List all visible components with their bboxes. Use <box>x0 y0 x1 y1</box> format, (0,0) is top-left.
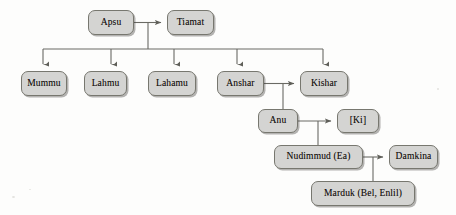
node-kishar[interactable]: Kishar <box>300 71 348 96</box>
node-label: Apsu <box>99 17 124 27</box>
node-lahmu[interactable]: Lahmu <box>84 71 127 96</box>
node-damkina[interactable]: Damkina <box>389 145 438 169</box>
node-lahamu[interactable]: Lahamu <box>148 71 196 96</box>
node-label: Anshar <box>224 78 256 88</box>
node-label: Nudimmud (Ea) <box>285 152 353 162</box>
scan-speckle <box>12 196 15 198</box>
node-apsu[interactable]: Apsu <box>88 10 134 35</box>
node-label: Anu <box>268 116 289 126</box>
node-label: Kishar <box>309 78 339 88</box>
node-label: Tiamat <box>175 17 206 27</box>
node-label: Mummu <box>25 78 62 88</box>
node-nudimmud-ea[interactable]: Nudimmud (Ea) <box>274 145 363 169</box>
node-tiamat[interactable]: Tiamat <box>167 10 214 35</box>
node-anu[interactable]: Anu <box>258 109 298 133</box>
node-label: Marduk (Bel, Enlil) <box>322 188 404 198</box>
node-label: Lahmu <box>90 78 122 88</box>
scan-speckle <box>29 189 31 190</box>
node-label: Damkina <box>394 152 434 162</box>
node-mummu[interactable]: Mummu <box>21 71 67 96</box>
node-marduk[interactable]: Marduk (Bel, Enlil) <box>311 181 415 206</box>
node-label: [Ki] <box>348 116 368 126</box>
node-anshar[interactable]: Anshar <box>217 71 264 96</box>
genealogy-diagram: Apsu Tiamat Mummu Lahmu Lahamu Anshar Ki… <box>0 0 456 215</box>
scan-speckle <box>437 88 439 90</box>
node-label: Lahamu <box>154 78 190 88</box>
node-ki[interactable]: [Ki] <box>337 109 379 133</box>
